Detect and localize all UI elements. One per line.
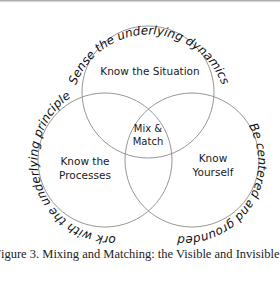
label-mix-match-line1: Mix & <box>134 123 163 134</box>
label-know-yourself-line1: Know <box>199 152 228 164</box>
label-know-the-situation: Know the Situation <box>100 65 199 77</box>
arc-text-yourself: Be centered and grounded <box>177 121 270 248</box>
figure-caption: Figure 3. Mixing and Matching: the Visib… <box>0 247 280 262</box>
label-know-yourself-line2: Yourself <box>192 166 234 178</box>
label-mix-match-line2: Match <box>133 136 164 147</box>
arc-text-processes: Work with the underlying principles <box>0 0 116 247</box>
circle-yourself <box>125 93 259 227</box>
arc-text-situation: Sense the underlying dynamics <box>66 23 233 86</box>
venn-diagram: Sense the underlying dynamics Work with … <box>0 0 280 287</box>
label-know-the-processes-line1: Know the <box>60 155 109 167</box>
label-know-the-processes-line2: Processes <box>59 169 111 181</box>
